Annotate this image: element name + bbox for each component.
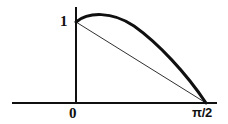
y-axis-tick-label-one: 1	[60, 14, 68, 29]
curve-path	[76, 15, 206, 103]
x-axis-tick-label-pi-over-two: π/2	[192, 106, 212, 119]
chord-line	[76, 22, 206, 103]
x-axis-tick-label-zero: 0	[69, 106, 77, 121]
math-figure: 1 0 π/2	[0, 0, 228, 124]
